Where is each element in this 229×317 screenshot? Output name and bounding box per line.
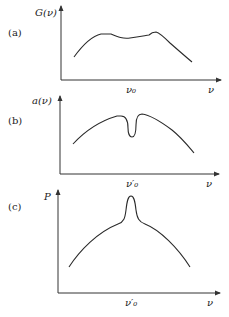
panel-c-center-tick-label: ν′₀ [125, 297, 137, 308]
panel-a-xlabel: ν [208, 84, 214, 95]
panel-c-label: (c) [8, 201, 22, 212]
panel-a: (a) G(ν) ν₀ ν [8, 6, 221, 95]
panel-b-label: (b) [8, 115, 22, 126]
panel-b-ylabel: a(ν) [32, 95, 52, 106]
panel-a-center-tick-label: ν₀ [126, 84, 136, 95]
panel-a-ylabel: G(ν) [35, 7, 57, 18]
panel-a-label: (a) [8, 27, 22, 38]
panel-b: (b) a(ν) ν′₀ ν [8, 95, 219, 189]
panel-c-ylabel: P [43, 191, 51, 202]
panel-b-xlabel: ν [206, 178, 212, 189]
panel-c-curve [69, 196, 190, 267]
figure-svg: (a) G(ν) ν₀ ν (b) a(ν) ν′₀ ν (c) P ν′₀ ν [0, 0, 229, 317]
panel-b-center-tick-label: ν′₀ [126, 178, 138, 189]
panel-b-curve [73, 114, 194, 153]
figure: (a) G(ν) ν₀ ν (b) a(ν) ν′₀ ν (c) P ν′₀ ν [0, 0, 229, 317]
panel-a-curve [74, 32, 192, 62]
panel-c-xlabel: ν [207, 297, 213, 308]
panel-c: (c) P ν′₀ ν [8, 190, 220, 308]
